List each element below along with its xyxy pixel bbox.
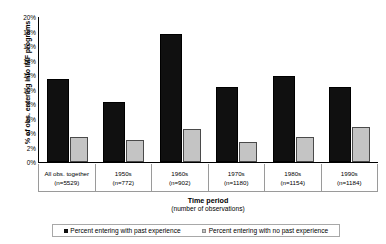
category-cell: 1960s(n=902) <box>152 164 209 191</box>
category-axis-band: All obs. together(n=5529)1950s(n=772)196… <box>38 164 378 192</box>
bar-chart: % of obs. entering into IMF programs 20%… <box>0 0 386 244</box>
category-label: 1960s <box>171 169 188 178</box>
chart-legend: Percent entering with past experience Pe… <box>52 224 340 237</box>
bar-group <box>96 17 153 162</box>
plot-area: 20% 18% 16% 14% 12% 10% 8% 6% 4% 2% 0% <box>38 17 378 163</box>
y-tick-label: 6% <box>27 115 39 122</box>
bar-group <box>209 17 266 162</box>
category-label: All obs. together <box>44 169 89 178</box>
category-cell: 1970s(n=1180) <box>209 164 266 191</box>
category-count: (n=1184) <box>337 178 361 188</box>
bar-no-past-experience <box>352 127 370 162</box>
category-cell: 1950s(n=772) <box>96 164 153 191</box>
bar-group <box>265 17 322 162</box>
bar-groups <box>39 17 378 162</box>
x-axis-subtitle: (number of observations) <box>38 205 378 212</box>
bar-group <box>322 17 379 162</box>
legend-swatch-icon <box>64 229 68 233</box>
bar-no-past-experience <box>183 129 201 162</box>
y-tick-label: 16% <box>23 43 39 50</box>
y-tick-label: 20% <box>23 14 39 21</box>
category-count: (n=902) <box>169 178 191 188</box>
y-tick-label: 10% <box>23 86 39 93</box>
bar-past-experience <box>273 76 295 162</box>
category-label: 1980s <box>284 169 301 178</box>
legend-label: Percent entering with no past experience <box>209 227 329 234</box>
y-tick-label: 18% <box>23 28 39 35</box>
category-label: 1950s <box>115 169 132 178</box>
category-label: 1990s <box>341 169 358 178</box>
category-cell: All obs. together(n=5529) <box>39 164 96 191</box>
y-tick-label: 12% <box>23 72 39 79</box>
bar-past-experience <box>216 87 238 162</box>
bar-past-experience <box>103 102 125 162</box>
legend-item-no-past-experience: Percent entering with no past experience <box>202 227 328 234</box>
bar-group <box>39 17 96 162</box>
category-cell: 1990s(n=1184) <box>322 164 378 191</box>
bar-past-experience <box>160 34 182 162</box>
legend-item-past-experience: Percent entering with past experience <box>64 227 181 234</box>
y-tick-label: 2% <box>27 144 39 151</box>
category-count: (n=772) <box>113 178 135 188</box>
category-count: (n=1154) <box>281 178 305 188</box>
legend-swatch-icon <box>202 229 206 233</box>
bar-past-experience <box>47 79 69 162</box>
y-tick-label: 8% <box>27 101 39 108</box>
y-tick-label: 14% <box>23 57 39 64</box>
bar-no-past-experience <box>126 140 144 162</box>
bar-no-past-experience <box>296 137 314 162</box>
x-axis-title: Time period <box>38 196 378 205</box>
y-tick-label: 4% <box>27 130 39 137</box>
bar-group <box>152 17 209 162</box>
category-count: (n=1180) <box>224 178 248 188</box>
bar-no-past-experience <box>239 142 257 162</box>
category-label: 1970s <box>228 169 245 178</box>
category-count: (n=5529) <box>54 178 79 188</box>
y-axis-title: % of obs. entering into IMF programs <box>23 0 32 168</box>
category-cell: 1980s(n=1154) <box>265 164 322 191</box>
bar-past-experience <box>329 87 351 162</box>
legend-label: Percent entering with past experience <box>70 227 180 234</box>
bar-no-past-experience <box>70 137 88 162</box>
